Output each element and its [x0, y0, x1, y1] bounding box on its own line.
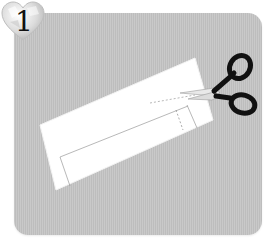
step-number: 1	[13, 4, 35, 40]
paper-strip-icon	[40, 58, 213, 190]
step-badge: 1	[0, 0, 46, 42]
